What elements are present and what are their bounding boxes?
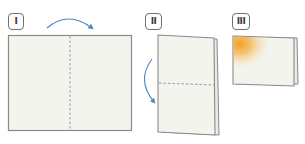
orange-glow: [234, 37, 294, 86]
step-1-sheet: [9, 36, 132, 131]
step-2-card: [158, 35, 219, 135]
folding-diagram: [0, 0, 305, 144]
step-3-tent-card: [233, 36, 298, 86]
fold-arrow-right-icon: [47, 19, 92, 28]
fold-arrow-down-icon: [144, 59, 154, 102]
